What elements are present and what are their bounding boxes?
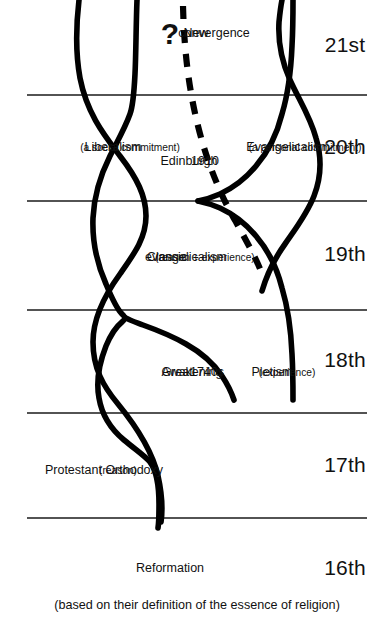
label-pietism-sub: (experience)	[259, 367, 316, 378]
rotated-diagram-wrapper: (based on their definition of the essenc…	[0, 0, 387, 626]
label-new-convergence-line2: convergence	[178, 26, 250, 40]
label-evangelicalism-sub: (a personal commitment)	[249, 142, 362, 153]
label-protestant-orthodoxy-sub: (reason)	[99, 465, 137, 476]
label-reformation: Reformation	[136, 561, 204, 575]
label-question-mark: ?	[161, 17, 179, 50]
century-label-19th: 19th	[324, 242, 366, 265]
label-liberalism-sub: (a social commitment)	[80, 142, 180, 153]
protestant-traditions-timeline: (based on their definition of the essenc…	[0, 0, 387, 626]
label-classic-evangelicalism-sub: (reason + experience)	[155, 252, 254, 263]
diagram-canvas: (based on their definition of the essenc…	[0, 0, 387, 626]
century-label-17th: 17th	[324, 453, 366, 476]
caption-text: (based on their definition of the essenc…	[54, 598, 340, 612]
label-great-awakening-year: 1740s	[190, 365, 224, 379]
century-label-18th: 18th	[324, 348, 366, 371]
century-label-16th: 16th	[324, 556, 366, 579]
century-label-21st: 21st	[325, 33, 366, 56]
label-edinburgh-year: 1910	[191, 154, 219, 168]
curve-great-awakening-branch	[126, 318, 234, 400]
